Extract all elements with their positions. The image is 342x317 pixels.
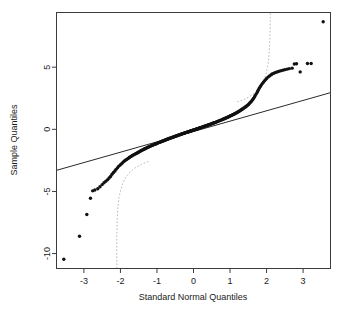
x-tick-label: -3 [80,276,88,286]
data-point [290,66,293,69]
x-tick-label: 0 [191,276,196,286]
x-tick-label: -1 [153,276,161,286]
y-tick-label: 5 [43,65,53,70]
data-point [89,197,92,200]
x-tick-label: 3 [301,276,306,286]
data-point [78,234,81,237]
x-tick-label: -2 [116,276,124,286]
y-tick-label: 0 [43,127,53,132]
figure-background [0,0,342,317]
qq-plot-canvas: -3-2-10123 50-5-10 Standard Normal Quant… [0,0,342,317]
x-axis-title: Standard Normal Quantiles [139,292,248,302]
data-point [295,62,298,65]
data-point [85,213,88,216]
data-point [298,70,301,73]
data-point [306,62,309,65]
y-axis-title: Sample Quantiles [9,104,19,176]
qq-plot-figure: -3-2-10123 50-5-10 Standard Normal Quant… [0,0,342,317]
y-tick-label: -5 [43,187,53,195]
x-tick-label: 2 [264,276,269,286]
y-tick-label: -10 [43,247,53,260]
data-point [93,188,96,191]
data-point [321,20,324,23]
data-point [309,62,312,65]
data-point [288,67,291,70]
x-tick-label: 1 [228,276,233,286]
data-point [62,257,65,260]
